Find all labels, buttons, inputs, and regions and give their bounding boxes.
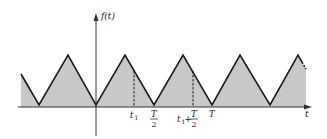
function-label: f(t)	[100, 11, 115, 21]
tick-label-t1-plus-T-half: t 1 + T 2	[177, 109, 198, 129]
t1-plus-text: t	[177, 114, 181, 124]
tick-label-t1: t 1	[130, 110, 138, 121]
waveform-diagram: f(t) t t 1 T 2 t 1 + T 2 T	[0, 0, 327, 139]
t1-plus-numerator: T	[191, 109, 198, 119]
tick-label-T-half: T 2	[150, 109, 158, 129]
t1-text: t	[130, 110, 134, 120]
T-half-numerator: T	[151, 109, 158, 119]
tick-label-T: T	[209, 109, 216, 119]
t-axis-label: t	[305, 109, 309, 119]
triangular-wave-figure: f(t) t t 1 T 2 t 1 + T 2 T	[0, 0, 327, 139]
f-axis-arrow-icon	[94, 13, 99, 21]
T-half-denominator: 2	[152, 120, 157, 129]
t1-plus-denominator: 2	[192, 120, 197, 129]
t1-subscript: 1	[135, 114, 139, 121]
